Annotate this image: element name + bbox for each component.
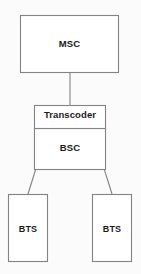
node-label-bts-right: BTS <box>92 225 132 234</box>
node-label-transcoder: Transcoder <box>34 110 106 120</box>
node-label-bts-left: BTS <box>8 225 48 234</box>
node-label-bsc: BSC <box>34 143 106 153</box>
diagram-canvas: MSC Transcoder BSC BTS BTS <box>0 0 141 274</box>
node-label-msc: MSC <box>20 39 119 49</box>
